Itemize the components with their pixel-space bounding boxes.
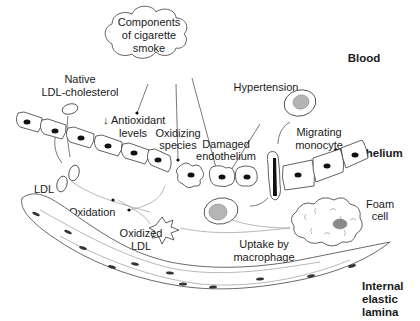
svg-text:cell: cell: [372, 210, 389, 222]
label-ldl: LDL: [34, 183, 54, 195]
svg-text:LDL-cholesterol: LDL-cholesterol: [41, 86, 118, 98]
atherogenesis-diagram: Components of cigarette smoke Blood Endo…: [0, 0, 420, 321]
label-damaged-endothelium: Damaged endothelium: [196, 138, 256, 162]
label-oxidizing-species: Oxidizing species: [155, 127, 200, 151]
label-uptake-by-macrophage: Uptake by macrophage: [233, 238, 294, 263]
cloud-line-3: smoke: [133, 42, 165, 54]
svg-text:↓ Antioxidant: ↓ Antioxidant: [103, 114, 165, 126]
svg-text:Internal: Internal: [362, 280, 404, 292]
region-label-internal-elastic-lamina: Internal elastic lamina: [362, 280, 404, 318]
svg-text:species: species: [159, 139, 197, 151]
svg-text:Native: Native: [64, 73, 95, 85]
region-label-blood: Blood: [348, 52, 381, 64]
svg-text:elastic: elastic: [362, 293, 398, 305]
cloud-line-1: Components: [118, 16, 181, 28]
cloud-line-2: of cigarette: [122, 29, 176, 41]
label-migrating-monocyte: Migrating monocyte: [295, 126, 343, 151]
svg-text:monocyte: monocyte: [295, 139, 343, 151]
svg-text:macrophage: macrophage: [233, 251, 294, 263]
svg-text:Damaged: Damaged: [202, 138, 250, 150]
svg-text:lamina: lamina: [362, 306, 399, 318]
svg-text:Migrating: Migrating: [296, 126, 341, 138]
ldl-particle-icon: [55, 175, 69, 193]
svg-text:Oxidizing: Oxidizing: [155, 127, 200, 139]
damaged-endothelial-cells: [176, 163, 257, 188]
cigarette-smoke-cloud: Components of cigarette smoke: [105, 6, 187, 58]
ldl-particle-icon: [61, 102, 79, 116]
macrophage: [202, 195, 268, 227]
label-hypertension: Hypertension: [234, 81, 299, 93]
svg-text:levels: levels: [119, 127, 148, 139]
svg-text:Foam: Foam: [366, 198, 394, 210]
foam-cell: Foam cell: [291, 198, 394, 246]
ldl-particle-icon: [67, 164, 81, 182]
svg-text:endothelium: endothelium: [196, 150, 256, 162]
svg-text:Uptake by: Uptake by: [239, 238, 289, 250]
svg-text:Oxidized: Oxidized: [120, 227, 163, 239]
